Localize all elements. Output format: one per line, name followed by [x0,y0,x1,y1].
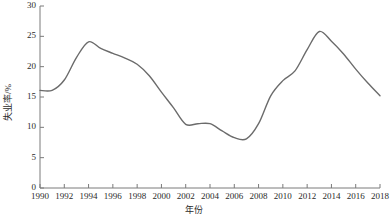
x-axis-tick-label: 2014 [319,192,343,201]
x-axis-tick-label: 1996 [101,192,125,201]
x-axis-tick-label: 1992 [52,192,76,201]
x-axis-tick-label: 1994 [77,192,101,201]
x-axis-tick-label: 2010 [271,192,295,201]
x-axis-tick-label: 2018 [368,192,392,201]
x-axis-title: 年份 [0,206,387,215]
y-axis-tick-label: 15 [18,92,36,101]
x-axis-tick-label: 1990 [28,192,52,201]
x-axis-tick-label: 2002 [174,192,198,201]
x-axis-tick-label: 2012 [295,192,319,201]
y-axis-ticks [40,6,44,188]
y-axis-title: 失业率/% [1,75,14,131]
x-axis-tick-label: 1998 [125,192,149,201]
x-axis-tick-label: 2000 [149,192,173,201]
x-axis-tick-label: 2006 [222,192,246,201]
y-axis-tick-label: 5 [18,153,36,162]
x-axis-tick-label: 2016 [344,192,368,201]
x-axis-ticks [40,184,380,188]
unemployment-rate-series-line [40,31,380,140]
y-axis-tick-label: 20 [18,62,36,71]
y-axis-tick-label: 10 [18,122,36,131]
y-axis-tick-label: 30 [18,1,36,10]
x-axis-tick-label: 2008 [247,192,271,201]
x-axis-tick-label: 2004 [198,192,222,201]
y-axis-tick-label: 25 [18,31,36,40]
